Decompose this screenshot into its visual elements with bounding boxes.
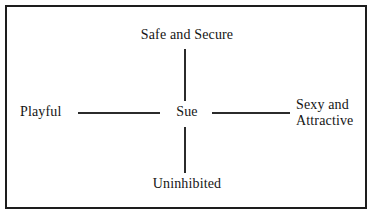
connector-center-to-bottom — [184, 127, 186, 173]
diagram-canvas: Safe and Secure Playful Sue Sexy and Att… — [0, 0, 374, 216]
connector-center-to-top — [184, 49, 186, 101]
node-label-top: Safe and Secure — [0, 27, 374, 42]
node-label-right-line2: Attractive — [296, 113, 372, 129]
diagram-page: Safe and Secure Playful Sue Sexy and Att… — [0, 0, 374, 216]
node-label-bottom: Uninhibited — [0, 176, 374, 191]
node-label-right: Sexy and Attractive — [296, 97, 372, 129]
node-label-right-line1: Sexy and — [296, 97, 349, 112]
